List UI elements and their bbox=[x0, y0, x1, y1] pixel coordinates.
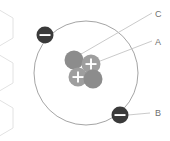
neutron-top-left-icon bbox=[65, 51, 84, 70]
electron-upper-left-minus-icon bbox=[40, 34, 51, 36]
electron-lower-right-minus-icon bbox=[115, 114, 126, 116]
atom-diagram-svg: C A B bbox=[0, 0, 170, 141]
leader-line-a bbox=[95, 41, 152, 63]
leader-line-c bbox=[76, 13, 152, 57]
hexagon-middle-icon bbox=[0, 53, 13, 93]
label-a: A bbox=[155, 37, 161, 47]
hexagon-top-icon bbox=[0, 8, 13, 48]
label-b: B bbox=[155, 108, 161, 118]
hexagon-bottom-icon bbox=[0, 98, 13, 138]
atom-diagram-canvas: C A B bbox=[0, 0, 170, 141]
leader-line-b bbox=[128, 113, 150, 115]
neutron-bottom-right-icon bbox=[84, 70, 103, 89]
label-c: C bbox=[155, 9, 162, 19]
hexagon-decoration-group bbox=[0, 8, 13, 138]
nucleus-group bbox=[65, 51, 103, 89]
